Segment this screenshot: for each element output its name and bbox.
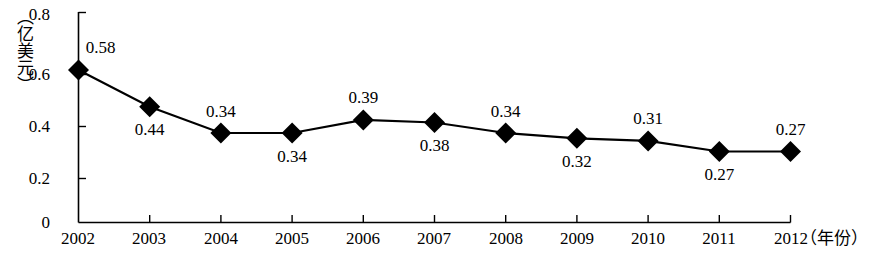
point-label-2010: 0.31	[621, 110, 675, 127]
x-tick-label-2003: 2003	[109, 230, 189, 247]
data-point-2005	[282, 123, 303, 144]
x-tick-label-2010: 2010	[608, 230, 688, 247]
point-label-2006: 0.39	[336, 89, 390, 106]
x-tick-label-2006: 2006	[323, 230, 403, 247]
point-label-2003: 0.44	[123, 121, 177, 138]
x-tick-label-2007: 2007	[394, 230, 474, 247]
x-axis-title: （年份）	[800, 230, 868, 247]
x-axis-ticks	[150, 215, 720, 223]
data-point-2011	[709, 141, 730, 162]
x-tick-label-2009: 2009	[537, 230, 617, 247]
data-point-2008	[495, 123, 516, 144]
x-tick-label-2011: 2011	[679, 230, 759, 247]
point-label-2007: 0.38	[408, 137, 462, 154]
data-point-2003	[139, 96, 160, 117]
data-point-2009	[566, 128, 587, 149]
x-tick-label-2004: 2004	[181, 230, 261, 247]
point-label-2011: 0.27	[692, 166, 746, 183]
data-point-2012	[780, 141, 801, 162]
point-label-2002: 0.58	[74, 39, 128, 56]
data-point-2002	[68, 59, 89, 80]
point-label-2008: 0.34	[479, 103, 533, 120]
data-point-2010	[638, 130, 659, 151]
x-tick-label-2002: 2002	[38, 230, 118, 247]
x-tick-label-2008: 2008	[466, 230, 546, 247]
data-point-2007	[424, 112, 445, 133]
y-axis-ticks	[79, 75, 87, 179]
point-label-2004: 0.34	[194, 103, 248, 120]
point-label-2009: 0.32	[550, 153, 604, 170]
data-point-2004	[210, 123, 231, 144]
line-chart: （亿美元） 0.8 0.6 0.4 0.2 0	[0, 0, 886, 253]
point-label-2012: 0.27	[764, 121, 818, 138]
point-label-2005: 0.34	[265, 148, 319, 165]
x-tick-label-2005: 2005	[252, 230, 332, 247]
data-point-2006	[353, 109, 374, 130]
